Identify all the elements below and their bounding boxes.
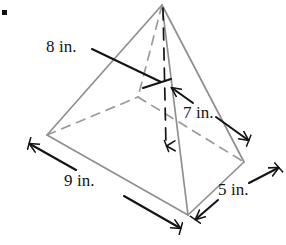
leader-line-8in [92, 49, 171, 88]
dimension-5in-right-half [249, 168, 278, 183]
dimension-label-slant-height: 8 in. [46, 38, 77, 55]
dimension-label-base-width: 5 in. [218, 181, 249, 198]
pyramid-diagram [0, 0, 286, 245]
dimension-arrow-7in-lower [216, 117, 248, 140]
dimension-9in-lower-half [124, 196, 180, 228]
dimension-label-lateral-slant: 7 in. [183, 104, 214, 121]
lateral-edge-right [162, 5, 244, 162]
pyramid-figure-page: 8 in. 7 in. 9 in. 5 in. [0, 0, 286, 245]
dimension-5in-left-half [196, 200, 218, 219]
leader-line-7in [172, 88, 193, 103]
dimension-9in [30, 144, 180, 228]
base-edge-back-left [47, 97, 138, 135]
dimension-label-base-length: 9 in. [64, 172, 95, 189]
pyramid-hidden-edges [47, 5, 244, 162]
